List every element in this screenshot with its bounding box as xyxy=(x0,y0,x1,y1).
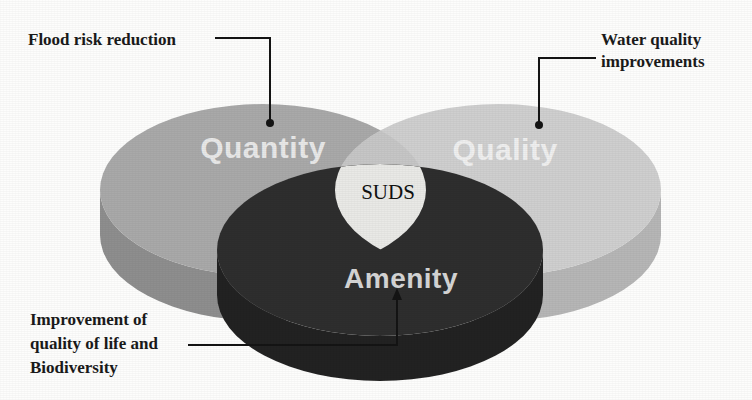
callout-label-amenity-line-2: quality of life and xyxy=(30,334,159,353)
callout-label-flood-risk-line-1: Flood risk reduction xyxy=(28,30,177,49)
suds-center-label: SUDS xyxy=(361,180,415,204)
callout-dot-water-quality xyxy=(535,121,543,129)
callout-label-water-quality-line-2: improvements xyxy=(601,52,705,71)
callout-label-water-quality-line-1: Water quality xyxy=(601,30,702,49)
callout-dot-flood-risk xyxy=(266,119,274,127)
callout-text-flood-risk: Flood risk reduction xyxy=(28,30,177,49)
callout-label-amenity-line-1: Improvement of xyxy=(30,310,148,329)
callout-label-amenity-line-3: Biodiversity xyxy=(30,358,118,377)
disc-label-amenity: Amenity xyxy=(344,263,458,294)
disc-label-quality: Quality xyxy=(452,133,557,166)
venn-diagram-canvas: Quantity Quality Amenity SUDS Flood risk… xyxy=(0,0,752,400)
disc-label-quantity: Quantity xyxy=(200,131,326,164)
